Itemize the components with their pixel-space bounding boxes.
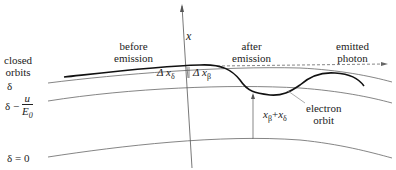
- dx-beta-subscript: β: [207, 72, 211, 81]
- after-emission-label: after emission: [232, 40, 271, 64]
- dx-delta-label: Δ xδ: [157, 66, 175, 83]
- dx-beta-label: Δ xβ: [193, 66, 211, 83]
- dx-delta-subscript: δ: [171, 72, 175, 81]
- electron-line2: orbit: [313, 114, 334, 126]
- orbit-delta: [48, 68, 392, 83]
- dx-delta-marker: [187, 67, 188, 78]
- fraction-e-subscript: 0: [29, 111, 33, 120]
- electron-orbit-pointer: [288, 91, 305, 103]
- x-axis-arrowhead: [180, 4, 184, 12]
- after-line2: emission: [232, 52, 271, 64]
- closed-orbits-line1: closed: [4, 54, 32, 66]
- orbit-delta-zero: [48, 138, 392, 158]
- x-sum-arrowhead: [251, 93, 255, 99]
- after-line1: after: [241, 40, 261, 52]
- delta-zero-label: δ = 0: [7, 152, 29, 164]
- closed-orbits-line2: orbits: [6, 66, 31, 78]
- delta-label: δ: [7, 80, 12, 92]
- fraction-e: E: [22, 105, 29, 117]
- fraction-numerator: u: [22, 93, 33, 105]
- photon-arrowhead: [381, 62, 388, 66]
- axis-x-label: x: [186, 30, 191, 42]
- dx-delta-text: Δ x: [157, 66, 171, 78]
- emitted-line2: photon: [337, 52, 368, 64]
- x-delta-subscript: δ: [283, 114, 287, 123]
- emitted-photon-label: emitted photon: [336, 40, 369, 64]
- delta-minus-u-label: δ − u E0: [5, 93, 33, 122]
- emitted-line1: emitted: [336, 40, 369, 52]
- dx-beta-text: Δ x: [193, 66, 207, 78]
- electron-orbit-label: electron orbit: [306, 102, 341, 126]
- orbit-delta-minus-u: [48, 87, 392, 103]
- electron-line1: electron: [306, 102, 341, 114]
- delta-minus-text: δ −: [5, 100, 19, 112]
- before-line2: emission: [114, 52, 153, 64]
- x-sum-label: xβ+xδ: [263, 108, 287, 125]
- before-emission-label: before emission: [114, 40, 153, 64]
- u-over-e0-fraction: u E0: [22, 93, 33, 122]
- photon-path: [217, 64, 384, 66]
- diagram-canvas: [0, 0, 396, 170]
- closed-orbits-label: closed orbits: [4, 54, 32, 78]
- before-line1: before: [120, 40, 148, 52]
- diagram: closed orbits δ δ − u E0 δ = 0 before em…: [0, 0, 396, 170]
- fraction-denominator: E0: [22, 105, 33, 122]
